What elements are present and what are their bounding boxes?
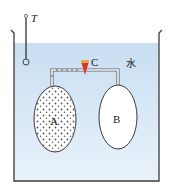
diagram: T C 水 A B — [0, 0, 174, 191]
thermometer-label: T — [31, 12, 38, 24]
container-a-label: A — [50, 115, 58, 127]
container-b-label: B — [113, 113, 120, 125]
valve-label: C — [91, 56, 98, 68]
water-label: 水 — [126, 58, 136, 69]
